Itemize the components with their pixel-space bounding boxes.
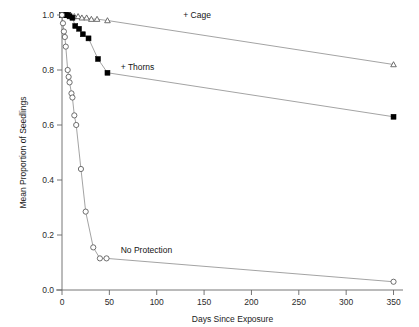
- data-point: [104, 256, 109, 261]
- data-point: [74, 122, 79, 127]
- x-tick-label: 300: [339, 297, 353, 307]
- x-tick-label: 200: [244, 297, 258, 307]
- data-point: [70, 95, 75, 100]
- data-point: [78, 166, 83, 171]
- series-annotations: + Cage+ ThornsNo Protection: [121, 10, 211, 255]
- data-point: [65, 67, 70, 72]
- data-point: [70, 15, 75, 20]
- series-line: [62, 15, 394, 65]
- data-point: [391, 279, 396, 284]
- data-point: [97, 256, 102, 261]
- data-point: [61, 29, 66, 34]
- data-point: [77, 26, 82, 31]
- survival-curve-plot: 0.00.20.40.60.81.0 050100150200250300350…: [0, 0, 419, 327]
- data-point: [67, 80, 72, 85]
- y-tick-label: 0.4: [42, 175, 54, 185]
- x-tick-label: 150: [197, 297, 211, 307]
- data-point: [91, 245, 96, 250]
- data-point: [83, 209, 88, 214]
- y-axis-ticks: 0.00.20.40.60.81.0: [42, 10, 62, 295]
- series-annotation-label: No Protection: [121, 245, 173, 255]
- data-point: [62, 34, 67, 39]
- x-tick-label: 350: [386, 297, 400, 307]
- series-line: [62, 15, 394, 117]
- x-axis-title: Days Since Exposure: [192, 314, 274, 324]
- x-tick-label: 0: [60, 297, 65, 307]
- data-point: [60, 21, 65, 26]
- y-tick-label: 0.8: [42, 65, 54, 75]
- data-point: [105, 70, 110, 75]
- data-point: [72, 113, 77, 118]
- data-point: [391, 114, 396, 119]
- data-point: [80, 32, 85, 37]
- x-axis-ticks: 050100150200250300350: [60, 290, 401, 307]
- x-tick-label: 250: [292, 297, 306, 307]
- series-annotation-label: + Thorns: [121, 62, 155, 72]
- series-open-triangle: [59, 12, 396, 67]
- y-tick-label: 0.0: [42, 285, 54, 295]
- y-axis-title: Mean Proportion of Seedlings: [18, 97, 28, 209]
- data-point: [66, 74, 71, 79]
- data-series-group: [59, 12, 396, 284]
- data-point: [95, 57, 100, 62]
- y-tick-label: 0.6: [42, 120, 54, 130]
- series-filled-square: [60, 13, 397, 120]
- series-open-circle: [59, 12, 396, 284]
- data-point: [63, 44, 68, 49]
- data-point: [59, 12, 64, 17]
- x-tick-label: 100: [150, 297, 164, 307]
- y-tick-label: 1.0: [42, 10, 54, 20]
- series-annotation-label: + Cage: [183, 10, 211, 20]
- y-tick-label: 0.2: [42, 230, 54, 240]
- x-tick-label: 50: [105, 297, 115, 307]
- series-line: [62, 15, 394, 282]
- data-point: [86, 36, 91, 41]
- chart-container: 0.00.20.40.60.81.0 050100150200250300350…: [0, 0, 419, 327]
